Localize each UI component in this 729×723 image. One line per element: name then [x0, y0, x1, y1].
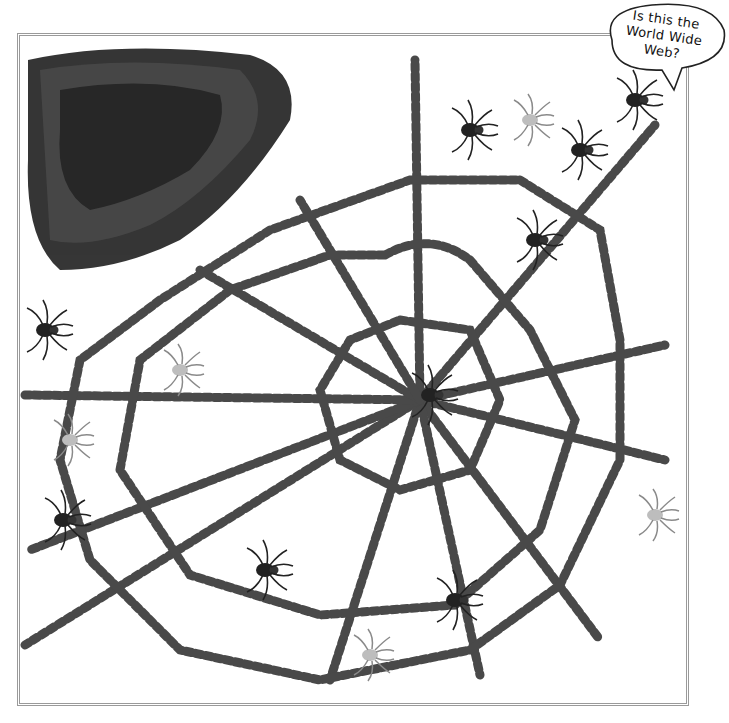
- pale-spider: [514, 94, 554, 146]
- spider-web-illustration: [0, 0, 729, 723]
- pale-spider: [639, 489, 679, 541]
- spider: [562, 120, 608, 180]
- spider: [452, 100, 498, 160]
- spider: [27, 300, 73, 360]
- pale-spider: [164, 344, 204, 396]
